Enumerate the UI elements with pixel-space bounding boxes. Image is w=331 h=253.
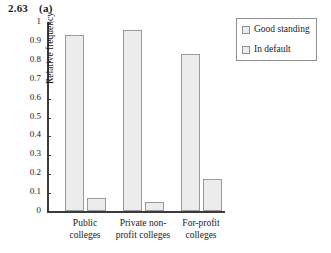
bar-good-standing[interactable]	[181, 54, 200, 211]
x-axis-category-label: For-profitcolleges	[164, 217, 238, 241]
x-axis-label-line: For-profit	[164, 217, 238, 229]
y-axis-tick-label: 0.2	[30, 168, 41, 177]
y-axis-tick-label: 0	[37, 206, 42, 215]
y-axis-tick-mark	[47, 212, 51, 213]
y-axis-tick-label: 0.4	[30, 130, 41, 139]
y-axis-tick-label: 1	[37, 17, 42, 26]
bar-in-default[interactable]	[87, 198, 106, 211]
y-axis-tick-label: 0.9	[30, 36, 41, 45]
legend-label: In default	[254, 44, 291, 55]
y-axis-tick-label: 0.6	[30, 93, 41, 102]
chart-plot-area: Relative frequency 00.10.20.30.40.50.60.…	[47, 22, 225, 213]
legend-swatch-icon	[242, 26, 250, 34]
bar-good-standing[interactable]	[65, 35, 84, 211]
bar-good-standing[interactable]	[123, 30, 142, 211]
legend-label: Good standing	[254, 24, 310, 35]
figure-number: 2.63	[8, 2, 28, 14]
bar-group-container	[47, 22, 225, 211]
bar-in-default[interactable]	[145, 202, 164, 211]
x-axis-label-line: colleges	[164, 229, 238, 241]
y-axis-tick-label: 0.7	[30, 74, 41, 83]
x-axis-line	[47, 211, 225, 213]
chart-legend: Good standing In default	[236, 18, 317, 61]
y-axis-tick-label: 0.3	[30, 149, 41, 158]
bar-in-default[interactable]	[203, 179, 222, 211]
x-axis-category-labels: PubliccollegesPrivate non-profit college…	[47, 217, 231, 251]
y-axis-tick-label: 0.5	[30, 112, 41, 121]
legend-swatch-icon	[242, 46, 250, 54]
y-axis-tick-label: 0.1	[30, 187, 41, 196]
y-axis-tick-label: 0.8	[30, 55, 41, 64]
legend-item-good-standing: Good standing	[242, 24, 310, 35]
legend-item-in-default: In default	[242, 44, 310, 55]
